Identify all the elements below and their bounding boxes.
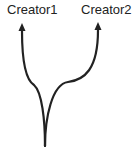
arrowhead-creator1-icon — [19, 23, 26, 31]
edge-to-creator1 — [22, 31, 45, 146]
edge-to-creator2 — [45, 30, 98, 146]
branching-arrows — [0, 0, 137, 153]
arrowhead-creator2-icon — [95, 22, 102, 30]
